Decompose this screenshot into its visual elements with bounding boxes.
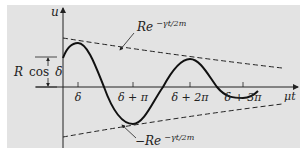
tick-label-delta-plus-2pi: δ + 2π xyxy=(171,91,209,104)
tick-label-delta: δ xyxy=(75,91,82,104)
tick-label-delta-plus-pi: δ + π xyxy=(118,91,149,104)
oscillation-curve xyxy=(63,43,258,124)
lower-envelope-label: −Re −γt/2m xyxy=(135,133,195,148)
damped-oscillation-diagram: u μt R cos δ Re −γt/2m −Re −γt/2m δ δ + … xyxy=(0,0,306,154)
amplitude-label: R cos δ xyxy=(13,65,62,79)
upper-envelope-label: Re −γt/2m xyxy=(136,19,187,34)
upper-envelope-curve xyxy=(63,38,282,68)
lower-envelope-pointer xyxy=(122,125,136,138)
x-axis-label: μt xyxy=(284,90,296,103)
tick-label-delta-plus-3pi: δ + 3π xyxy=(224,91,262,104)
y-axis-label: u xyxy=(51,5,59,19)
